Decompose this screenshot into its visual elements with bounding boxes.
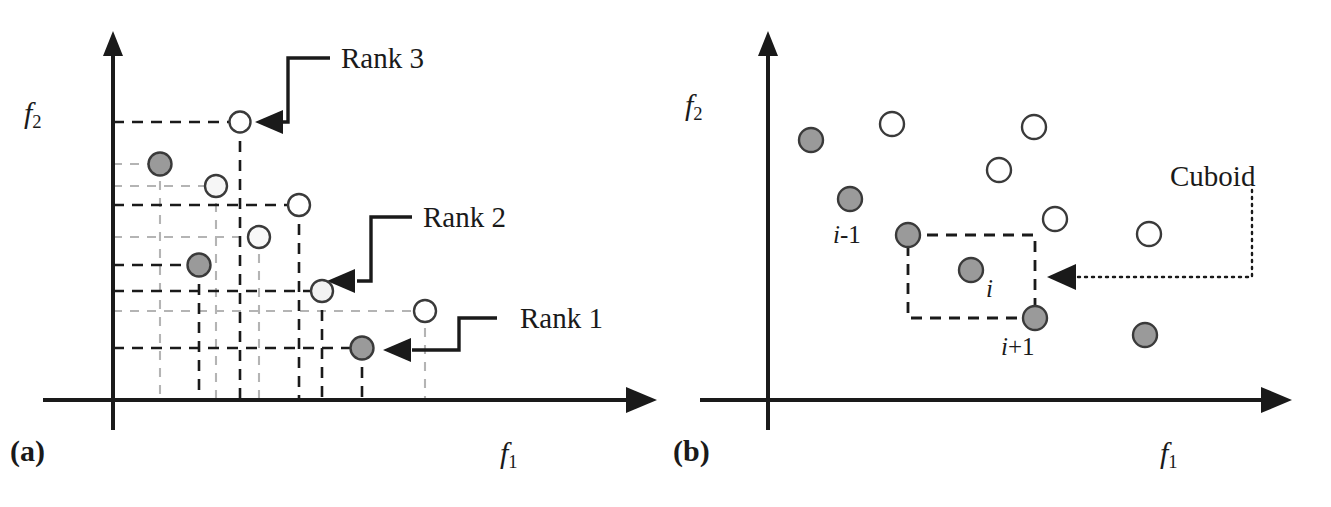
point-label-i-plus-1: i+1 <box>1001 334 1035 359</box>
callout-label-rank-1: Rank 1 <box>520 304 603 333</box>
callout-label-rank-2: Rank 2 <box>423 203 506 232</box>
data-point-filled <box>149 153 172 176</box>
panel-b-plot <box>661 0 1331 507</box>
y-axis-arrowhead <box>758 31 778 56</box>
data-point-open <box>288 194 310 216</box>
data-point-filled <box>799 128 823 152</box>
x-axis-arrowhead <box>1261 387 1292 413</box>
panel-b-tag: (b) <box>673 436 710 466</box>
data-point-open <box>230 112 251 133</box>
data-point-filled <box>351 337 374 360</box>
callout-label-cuboid: Cuboid <box>1170 162 1255 191</box>
data-point-filled-i-plus-1 <box>1023 306 1047 330</box>
panel-a-plot <box>0 0 670 507</box>
panel-a-non-dominated-sorting: f2 f1 (a) Rank 3 Rank 2 Rank 1 <box>0 0 670 507</box>
data-point-filled-i-minus-1 <box>896 223 920 247</box>
data-point-open <box>987 158 1011 182</box>
data-point-open <box>248 226 270 248</box>
data-point-filled <box>1133 323 1157 347</box>
data-point-filled-i <box>959 258 983 282</box>
data-point-open <box>414 300 436 322</box>
callout-label-rank-3: Rank 3 <box>341 44 424 73</box>
y-axis-arrowhead <box>103 31 123 56</box>
panel-b-y-axis-label: f2 <box>685 90 703 124</box>
panel-a-filled-points <box>149 153 374 360</box>
data-point-filled <box>188 254 211 277</box>
panel-a-y-axis-label: f2 <box>24 98 42 132</box>
data-point-open <box>1137 222 1161 246</box>
data-point-open <box>311 280 333 302</box>
panel-b-axes <box>700 31 1292 430</box>
cuboid-leader-line <box>1075 190 1252 277</box>
panel-b-x-axis-label: f1 <box>1160 438 1178 472</box>
figure-root: f2 f1 (a) Rank 3 Rank 2 Rank 1 <box>0 0 1331 507</box>
panel-b-crowding-distance: f2 f1 (b) Cuboid i-1 i i+1 <box>661 0 1331 507</box>
data-point-open <box>205 175 227 197</box>
data-point-open <box>880 112 904 136</box>
data-point-filled <box>838 187 862 211</box>
panel-a-x-axis-label: f1 <box>500 438 518 472</box>
panel-a-tag: (a) <box>10 436 45 466</box>
point-label-i-minus-1: i-1 <box>833 222 861 247</box>
x-axis-arrowhead <box>626 387 657 413</box>
panel-a-callout-arrowheads <box>255 110 411 362</box>
panel-a-axes <box>43 31 657 430</box>
cuboid-arrowhead <box>1047 264 1076 290</box>
data-point-open <box>1043 207 1067 231</box>
light-projection-lines <box>113 164 425 400</box>
panel-b-open-points <box>880 112 1161 246</box>
data-point-open <box>1022 115 1046 139</box>
point-label-i: i <box>986 276 993 301</box>
